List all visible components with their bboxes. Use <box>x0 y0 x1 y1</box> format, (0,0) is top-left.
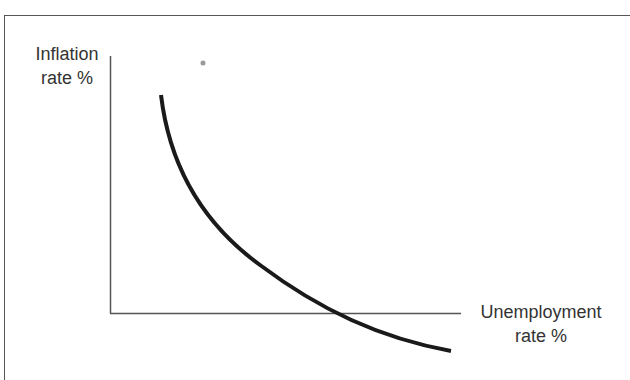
x-axis-label-line2: rate % <box>466 324 616 348</box>
phillips-curve <box>161 95 451 351</box>
y-axis-label: Inflation rate % <box>22 42 112 90</box>
x-axis-label: Unemployment rate % <box>466 300 616 348</box>
y-axis-label-line1: Inflation <box>22 42 112 66</box>
x-axis-label-line1: Unemployment <box>466 300 616 324</box>
stray-dot <box>201 61 206 66</box>
y-axis-label-line2: rate % <box>22 66 112 90</box>
